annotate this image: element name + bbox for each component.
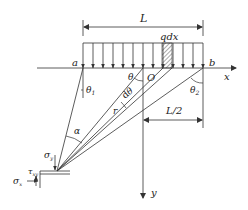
sigma-y-label: σy <box>44 150 53 162</box>
theta2-label: θ2 <box>190 85 199 96</box>
half-length-dimension: L/2 <box>144 105 202 120</box>
length-label: L <box>139 12 147 25</box>
x-axis-label: x <box>224 71 230 82</box>
length-dimension: L <box>83 12 203 36</box>
alpha-label: α <box>74 126 80 136</box>
point-b-label: b <box>209 57 215 68</box>
tau-xy-label: τxy <box>28 167 38 178</box>
point-a-label: a <box>72 57 78 68</box>
distributed-load <box>83 43 203 68</box>
y-axis-label: y <box>150 187 157 198</box>
ray-element-right <box>57 68 172 171</box>
dtheta-label: dθ <box>120 85 135 100</box>
theta-label: θ <box>128 72 134 82</box>
radius-label: r <box>113 106 118 116</box>
load-element-label: qdx <box>160 31 179 42</box>
ray-fan <box>57 68 203 171</box>
stress-element: σy τxy σx <box>13 150 70 188</box>
half-plane-load-diagram: L qdx x a b O y L/2 <box>0 0 248 210</box>
half-length-label: L/2 <box>165 105 182 116</box>
theta2-arc <box>191 78 203 83</box>
ray-element-left <box>57 68 163 171</box>
origin-label: O <box>147 72 155 83</box>
theta-arc <box>134 78 143 81</box>
hatched-load-strip <box>162 43 172 68</box>
alpha-arc <box>66 136 82 143</box>
theta1-label: θ1 <box>86 85 95 96</box>
sigma-x-label: σx <box>13 176 22 187</box>
